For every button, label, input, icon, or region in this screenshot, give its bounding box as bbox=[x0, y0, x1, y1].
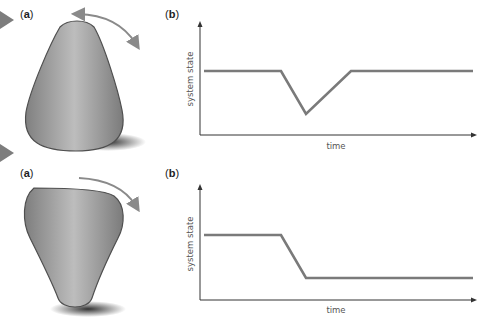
chart-unstable: system state time bbox=[0, 0, 491, 329]
system-state-line bbox=[204, 235, 473, 278]
y-axis-arrow-icon bbox=[198, 184, 203, 190]
y-axis-title: system state bbox=[185, 217, 195, 272]
x-axis-arrow-icon bbox=[471, 298, 477, 303]
x-axis-title: time bbox=[326, 305, 345, 315]
